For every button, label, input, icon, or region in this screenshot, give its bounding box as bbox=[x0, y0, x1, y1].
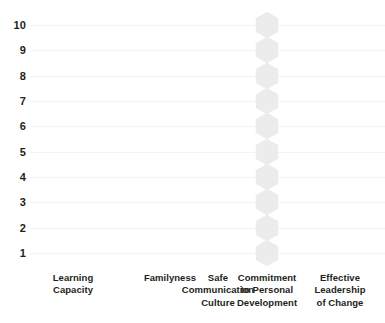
gridline-6 bbox=[30, 126, 385, 127]
y-tick-label-3: 3 bbox=[0, 197, 26, 208]
x-axis: Learning Capacity Familyness Safe Commun… bbox=[0, 272, 385, 323]
gridline-2 bbox=[30, 228, 385, 229]
x-tick-label-commitment-development: Commitment to Personal Development bbox=[225, 272, 309, 309]
plot-area: 10 9 8 7 6 5 4 3 2 1 bbox=[0, 0, 385, 270]
y-tick-label-10: 10 bbox=[0, 20, 26, 31]
gridline-5 bbox=[30, 152, 385, 153]
y-tick-label-9: 9 bbox=[0, 45, 26, 56]
y-tick-label-8: 8 bbox=[0, 71, 26, 82]
x-tick-label-learning-capacity: Learning Capacity bbox=[35, 272, 111, 297]
y-tick-label-2: 2 bbox=[0, 223, 26, 234]
y-tick-label-6: 6 bbox=[0, 121, 26, 132]
gridline-4 bbox=[30, 177, 385, 178]
gridline-10 bbox=[30, 25, 385, 26]
gridline-9 bbox=[30, 50, 385, 51]
scatter-chart: 10 9 8 7 6 5 4 3 2 1 Learning Capacity F… bbox=[0, 0, 385, 323]
x-tick-label-effective-leadership: Effective Leadership of Change bbox=[300, 272, 380, 309]
y-tick-label-1: 1 bbox=[0, 248, 26, 259]
y-tick-label-5: 5 bbox=[0, 147, 26, 158]
gridline-1 bbox=[30, 253, 385, 254]
gridline-8 bbox=[30, 76, 385, 77]
gridline-3 bbox=[30, 202, 385, 203]
gridline-7 bbox=[30, 101, 385, 102]
y-tick-label-7: 7 bbox=[0, 96, 26, 107]
y-tick-label-4: 4 bbox=[0, 172, 26, 183]
